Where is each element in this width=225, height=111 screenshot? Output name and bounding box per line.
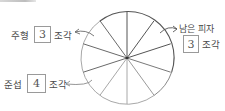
unit-text: 조각 [54,28,72,42]
person-name: 주형 [11,28,29,42]
arrow-junseop [66,80,92,86]
label-remaining-title: 남은 피자 [179,22,214,35]
unit-text: 조각 [202,37,220,51]
label-junseop: 준섭 4 조각 [4,74,67,93]
label-remaining: 3 조각 [183,35,220,53]
remaining-title-text: 남은 피자 [179,22,214,35]
person-name: 준섭 [4,77,22,91]
pizza-diagram [0,0,225,111]
arrow-juhyeong [75,29,94,36]
answer-box: 3 [183,35,199,53]
pizza-outline-eaten [81,21,154,104]
label-juhyeong: 주형 3 조각 [11,26,72,43]
answer-box: 4 [27,74,46,93]
unit-text: 조각 [49,77,67,91]
answer-box: 3 [34,26,51,43]
